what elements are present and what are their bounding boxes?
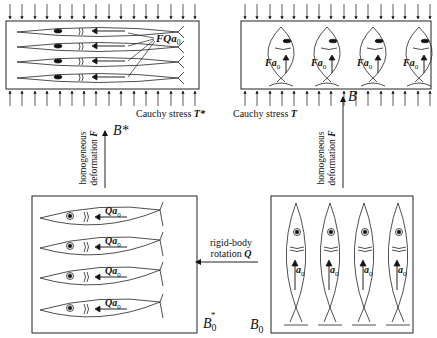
qa0-label-3: Qa0 [105,266,121,279]
b-label: B [348,90,357,104]
compressive-load-arrows-bottom [10,91,195,106]
fqa0-label: FQa0 [156,33,181,47]
a0-label-4: a0 [398,265,407,278]
bottom-right-panel [271,196,413,333]
compressive-load-arrows-top [10,4,195,19]
b0-label: B0 [250,318,263,335]
bstar-label: B* [113,124,129,138]
diagram-canvas [0,0,437,338]
b0-star-label: B0* [203,315,221,333]
fa0-label-2: Fa0 [311,58,326,71]
fa0-label-3: Fa0 [357,58,372,71]
top-left-panel [6,4,199,106]
qa0-label-1: Qa0 [105,206,121,219]
a0-label-1: a0 [296,265,305,278]
fa0-label-1: Fa0 [265,58,280,71]
qa0-label-2: Qa0 [105,236,121,249]
fa0-label-4: Fa0 [403,58,418,71]
cauchy-stress-t-caption: Cauchy stress T [233,109,297,119]
a0-label-2: a0 [330,265,339,278]
homogeneous-deformation-right-label: homogeneous deformation F [316,128,338,188]
top-right-panel [241,4,432,106]
compressive-load-arrows-bottom [245,91,430,106]
a0-label-3: a0 [364,265,373,278]
rigid-body-rotation-label: rigid-body rotation Q [205,237,257,259]
qa0-label-4: Qa0 [105,298,121,311]
homogeneous-deformation-left-label: homogeneous deformation F [78,128,100,188]
cauchy-stress-tstar-caption: Cauchy stress T* [136,109,205,119]
compressive-load-arrows-top [245,4,430,19]
